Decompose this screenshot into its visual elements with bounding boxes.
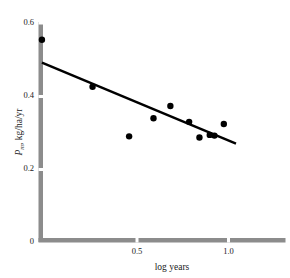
data-point	[150, 115, 156, 121]
regression-line	[42, 63, 236, 144]
data-point	[186, 119, 192, 125]
y-tick-label-0: 0.6	[23, 17, 34, 27]
x-axis-title: log years	[155, 262, 190, 272]
y-axis	[39, 22, 44, 242]
data-point	[89, 84, 95, 90]
scatter-plot: 0.6 0.4 0.2 0 0.5 1.0 log years Pm, kg/h…	[0, 0, 290, 278]
data-point	[126, 133, 132, 139]
x-tick-label-0: 0.5	[132, 246, 143, 256]
data-point	[211, 132, 217, 138]
y-tick-label-2: 0.2	[23, 163, 34, 173]
data-point	[196, 134, 202, 140]
x-tick-label-1: 1.0	[223, 246, 234, 256]
fit-line	[42, 63, 236, 144]
data-point	[167, 103, 173, 109]
svg-text:Pm, kg/ha/yr: Pm, kg/ha/yr	[14, 108, 25, 157]
y-axis-title: Pm, kg/ha/yr	[14, 108, 25, 157]
chart-figure: 0.6 0.4 0.2 0 0.5 1.0 log years Pm, kg/h…	[0, 0, 290, 278]
data-point	[221, 121, 227, 127]
y-axis-title-units: , kg/ha/yr	[14, 108, 24, 145]
data-point	[39, 37, 45, 43]
y-tick-label-3: 0	[30, 236, 34, 246]
data-points	[39, 37, 227, 141]
y-tick-label-1: 0.4	[23, 90, 34, 100]
x-axis	[39, 238, 286, 243]
